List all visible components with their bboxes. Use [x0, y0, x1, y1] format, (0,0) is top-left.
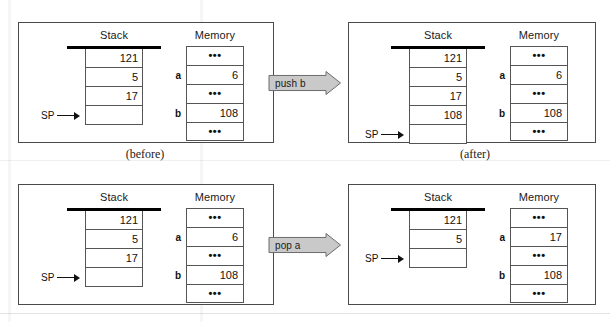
ellipsis-icon: •••: [208, 250, 221, 261]
stack-pointer: SP: [41, 110, 80, 122]
stack-pointer-shaft-icon: [381, 258, 398, 259]
memory-cell-value: 108: [187, 104, 243, 123]
stack-cell: [410, 125, 466, 144]
memory-cell-ellipsis: •••: [187, 209, 243, 228]
stack-cell: [86, 268, 142, 287]
memory-variable-label: a: [167, 70, 181, 81]
stack-cell: 121: [86, 49, 142, 68]
ellipsis-icon: •••: [532, 212, 545, 223]
stack-pointer: SP: [365, 129, 404, 141]
memory-cell-ellipsis: •••: [511, 285, 567, 304]
memory-cell-ellipsis: •••: [187, 247, 243, 266]
memory-variable-label: a: [491, 70, 505, 81]
memory-variable-label: b: [167, 270, 181, 281]
memory-box: •••6•••108•••: [510, 46, 568, 141]
memory-variable-label: b: [491, 108, 505, 119]
stack-heading: Stack: [383, 29, 493, 41]
stack-heading: Stack: [59, 29, 169, 41]
stack-pointer-arrowhead-icon: [398, 131, 404, 139]
stack-pointer-label: SP: [41, 110, 55, 121]
operation-arrow-pop: pop a: [268, 232, 342, 258]
stack-box: 1215: [409, 211, 467, 268]
memory-box: •••17•••108•••: [510, 208, 568, 303]
stack-cell: 5: [410, 230, 466, 249]
panel-pop-before: Stack121517SPMemoryab•••6•••108•••: [18, 184, 274, 305]
stack-box: 121517: [85, 49, 143, 125]
memory-heading: Memory: [166, 191, 264, 203]
ellipsis-icon: •••: [532, 88, 545, 99]
panel-pop-after: Stack1215SPMemoryab•••17•••108•••: [348, 184, 596, 305]
stack-pointer-arrowhead-icon: [74, 112, 80, 120]
stack-pointer-label: SP: [365, 129, 379, 140]
stack-pointer-label: SP: [41, 272, 55, 283]
memory-box: •••6•••108•••: [186, 208, 244, 303]
ellipsis-icon: •••: [532, 50, 545, 61]
caption-after: (after): [420, 147, 530, 162]
operation-arrow-push: push b: [268, 70, 342, 96]
memory-cell-ellipsis: •••: [511, 85, 567, 104]
stack-cell: 5: [86, 230, 142, 249]
stack-pointer-label: SP: [365, 253, 379, 264]
memory-heading: Memory: [490, 29, 588, 41]
memory-cell-ellipsis: •••: [187, 123, 243, 142]
stack-pointer: SP: [365, 253, 404, 265]
stack-pointer-shaft-icon: [57, 277, 74, 278]
ellipsis-icon: •••: [208, 288, 221, 299]
memory-heading: Memory: [166, 29, 264, 41]
stack-cell: 121: [410, 49, 466, 68]
stack-cell: 108: [410, 106, 466, 125]
stack-pointer-arrowhead-icon: [398, 255, 404, 263]
stack-cell: 17: [86, 87, 142, 106]
panel-push-before: Stack121517SPMemoryab•••6•••108•••: [18, 22, 274, 143]
memory-cell-ellipsis: •••: [187, 47, 243, 66]
memory-cell-value: 17: [511, 228, 567, 247]
stack-pointer-shaft-icon: [381, 134, 398, 135]
stack-pointer-arrowhead-icon: [74, 274, 80, 282]
memory-cell-value: 6: [187, 228, 243, 247]
stack-pointer: SP: [41, 272, 80, 284]
ellipsis-icon: •••: [208, 50, 221, 61]
memory-cell-ellipsis: •••: [511, 209, 567, 228]
ellipsis-icon: •••: [208, 88, 221, 99]
memory-cell-ellipsis: •••: [511, 47, 567, 66]
scan-artifact-line: [8, 0, 11, 322]
memory-box: •••6•••108•••: [186, 46, 244, 141]
stack-cell: 5: [410, 68, 466, 87]
stack-cell: 17: [86, 249, 142, 268]
stack-box: 121517: [85, 211, 143, 287]
memory-cell-ellipsis: •••: [187, 85, 243, 104]
memory-cell-ellipsis: •••: [511, 123, 567, 142]
memory-variable-label: b: [491, 270, 505, 281]
memory-heading: Memory: [490, 191, 588, 203]
ellipsis-icon: •••: [532, 250, 545, 261]
stack-cell: [410, 249, 466, 268]
ellipsis-icon: •••: [208, 212, 221, 223]
stack-cell: 5: [86, 68, 142, 87]
stack-cell: 17: [410, 87, 466, 106]
ellipsis-icon: •••: [532, 288, 545, 299]
memory-cell-value: 108: [187, 266, 243, 285]
stack-cell: [86, 106, 142, 125]
stack-box: 121517108: [409, 49, 467, 144]
panel-push-after: Stack121517108SPMemoryab•••6•••108•••: [348, 22, 596, 143]
ellipsis-icon: •••: [208, 126, 221, 137]
memory-variable-label: b: [167, 108, 181, 119]
caption-before: (before): [90, 147, 200, 162]
ellipsis-icon: •••: [532, 126, 545, 137]
scan-artifact-line: [0, 313, 610, 314]
stack-heading: Stack: [383, 191, 493, 203]
memory-cell-value: 108: [511, 104, 567, 123]
stack-heading: Stack: [59, 191, 169, 203]
stack-pointer-shaft-icon: [57, 115, 74, 116]
memory-cell-value: 6: [511, 66, 567, 85]
memory-cell-ellipsis: •••: [187, 285, 243, 304]
memory-cell-ellipsis: •••: [511, 247, 567, 266]
memory-variable-label: a: [167, 232, 181, 243]
memory-cell-value: 6: [187, 66, 243, 85]
stack-cell: 121: [86, 211, 142, 230]
operation-arrow-label: pop a: [268, 240, 301, 251]
memory-variable-label: a: [491, 232, 505, 243]
operation-arrow-label: push b: [268, 78, 306, 89]
stack-cell: 121: [410, 211, 466, 230]
memory-cell-value: 108: [511, 266, 567, 285]
